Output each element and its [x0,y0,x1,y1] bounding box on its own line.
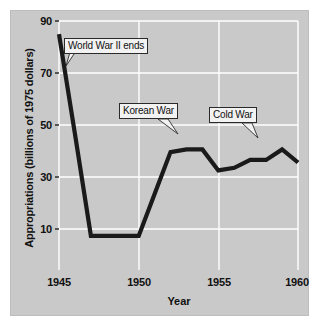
y-tick-label-90: 90 [30,15,52,27]
data-line-appropriations [59,34,298,236]
x-tick-label-1960: 1960 [277,276,317,288]
gridlines-vertical [59,21,298,270]
callout-world-war-ii-ends: World War II ends [64,38,148,54]
x-tick-label-1945: 1945 [39,276,79,288]
y-axis-title: Appropriations (billions of 1975 dollars… [23,33,35,263]
x-axis-title: Year [59,295,299,307]
x-tick-label-1955: 1955 [199,276,239,288]
x-tick-label-1950: 1950 [119,276,159,288]
callout-pointer-korean [158,119,178,134]
callout-korean-war: Korean War [119,103,178,119]
callout-cold-war: Cold War [209,107,257,123]
chart-figure: 90 70 50 30 10 1945 1950 1955 1960 Appro… [0,0,319,326]
